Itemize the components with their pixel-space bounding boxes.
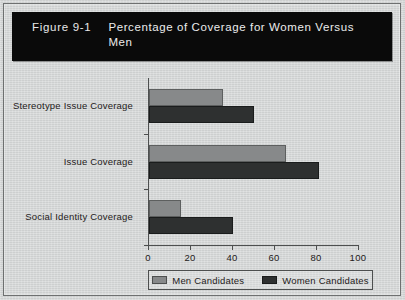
x-axis-tick <box>148 246 149 250</box>
x-axis-tick-label: 20 <box>184 252 195 263</box>
x-axis-tick-label: 80 <box>310 252 321 263</box>
figure-title-bar: Figure 9-1 Percentage of Coverage for Wo… <box>12 12 392 61</box>
legend-entry[interactable]: Women Candidates <box>262 275 368 286</box>
legend-swatch <box>262 276 277 284</box>
x-axis-line <box>148 245 359 246</box>
legend-entry[interactable]: Men Candidates <box>152 275 244 286</box>
x-axis-tick-label: 0 <box>145 252 151 263</box>
x-axis-tick-label: 40 <box>226 252 237 263</box>
bar <box>149 145 286 162</box>
bar <box>149 162 319 179</box>
category-label: Social Identity Coverage <box>25 211 133 222</box>
x-axis-tick-label: 60 <box>268 252 279 263</box>
bar <box>149 89 223 106</box>
bar <box>149 106 254 123</box>
category-label: Stereotype Issue Coverage <box>13 100 133 111</box>
plot-area: 020406080100 <box>148 78 358 245</box>
bar <box>149 217 233 234</box>
figure-number: Figure 9-1 <box>32 20 91 35</box>
figure-title: Percentage of Coverage for Women Versus … <box>108 20 358 50</box>
y-axis-tick <box>144 189 148 190</box>
legend-swatch <box>152 276 167 284</box>
x-axis-tick-label: 100 <box>350 252 367 263</box>
figure-title-row: Figure 9-1 Percentage of Coverage for Wo… <box>12 20 392 50</box>
category-label: Issue Coverage <box>64 156 133 167</box>
legend-label: Women Candidates <box>282 275 368 286</box>
x-axis-tick <box>358 246 359 250</box>
x-axis-tick <box>190 246 191 250</box>
y-axis-tick <box>144 245 148 246</box>
bar <box>149 200 181 217</box>
x-axis-tick <box>316 246 317 250</box>
chart-legend: Men CandidatesWomen Candidates <box>148 270 373 290</box>
y-axis-tick <box>144 134 148 135</box>
legend-label: Men Candidates <box>172 275 244 286</box>
x-axis-tick <box>274 246 275 250</box>
x-axis-tick <box>232 246 233 250</box>
category-axis-labels: Stereotype Issue CoverageIssue CoverageS… <box>0 78 142 245</box>
figure-container: Figure 9-1 Percentage of Coverage for Wo… <box>0 0 405 300</box>
